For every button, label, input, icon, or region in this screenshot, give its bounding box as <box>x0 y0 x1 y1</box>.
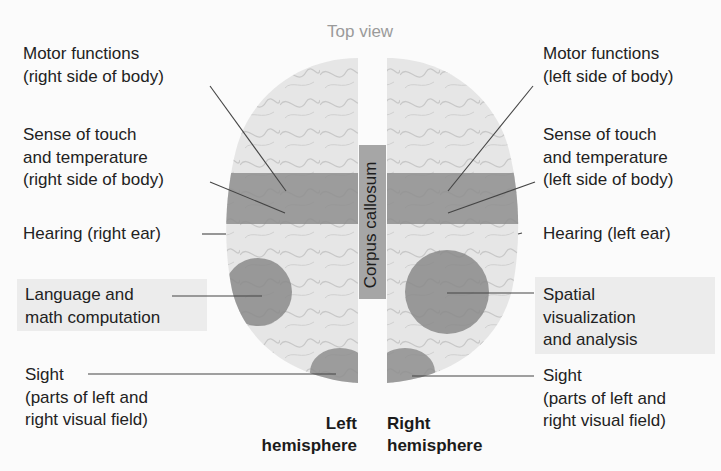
label-sight-left: Sight (parts of left and right visual fi… <box>25 364 148 432</box>
right-somatosensory-band <box>385 173 525 224</box>
label-hearing-left: Hearing (right ear) <box>23 223 161 246</box>
right-occipital-region <box>375 348 435 396</box>
right-spatial-region <box>405 250 489 334</box>
leader-hearing-right <box>518 233 522 234</box>
right-hemisphere-caption: Right hemisphere <box>387 413 482 457</box>
label-touch-left: Sense of touch and temperature (right si… <box>23 124 164 192</box>
label-touch-right: Sense of touch and temperature (left sid… <box>543 124 673 192</box>
left-occipital-region <box>310 348 370 396</box>
right-hemisphere <box>375 55 525 396</box>
label-motor-right: Motor functions (left side of body) <box>543 43 673 88</box>
top-view-label: Top view <box>327 22 393 42</box>
label-hearing-right: Hearing (left ear) <box>543 223 671 246</box>
left-hemisphere-caption: Left hemisphere <box>237 413 357 457</box>
corpus-callosum-label: Corpus callosum <box>356 150 386 300</box>
left-language-region <box>224 258 292 326</box>
label-sight-right: Sight (parts of left and right visual fi… <box>543 365 666 433</box>
label-motor-left: Motor functions (right side of body) <box>23 43 164 88</box>
label-language: Language and math computation <box>25 284 160 329</box>
left-hemisphere <box>220 55 370 396</box>
left-somatosensory-band <box>220 173 360 224</box>
label-spatial: Spatial visualization and analysis <box>543 284 638 352</box>
